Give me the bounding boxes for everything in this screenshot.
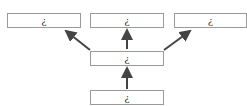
top-right-box: ¿ xyxy=(174,13,247,28)
arrow-middle-to-top-left xyxy=(66,31,90,50)
middle-box: ¿ xyxy=(90,51,164,66)
top-center-box: ¿ xyxy=(90,13,164,28)
middle-label: ¿ xyxy=(124,53,129,64)
top-left-label: ¿ xyxy=(41,15,46,26)
bottom-label: ¿ xyxy=(124,92,129,103)
top-left-box: ¿ xyxy=(7,13,81,28)
top-right-label: ¿ xyxy=(208,15,213,26)
top-center-label: ¿ xyxy=(124,15,129,26)
bottom-box: ¿ xyxy=(90,90,164,105)
arrow-middle-to-top-right xyxy=(164,31,190,50)
